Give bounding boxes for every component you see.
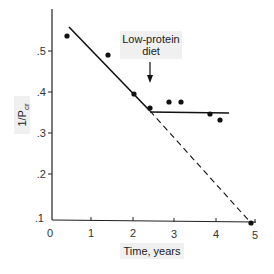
x-tick-label: 1	[88, 227, 94, 239]
y-axis-title-main: 1/P	[16, 110, 28, 127]
data-point	[131, 91, 136, 96]
x-tick-label: 2	[130, 227, 136, 239]
y-tick-label: .1	[35, 212, 44, 224]
data-point	[248, 220, 253, 225]
x-tick-label: 4	[213, 228, 219, 240]
annotation-line2: diet	[142, 45, 160, 57]
data-points	[64, 33, 253, 225]
y-tick-label: .3	[37, 127, 46, 139]
arrow-down-icon	[147, 62, 153, 83]
data-point	[207, 111, 212, 116]
x-tick-label: 3	[171, 228, 177, 240]
data-point	[166, 99, 171, 104]
x-tick-label: 5	[252, 229, 258, 241]
x-axis	[52, 220, 256, 222]
data-point	[105, 52, 110, 57]
y-tick-label: .4	[37, 86, 46, 98]
annotation-line1: Low-protein	[122, 33, 179, 45]
y-ticks: .5 .4 .3 .2 .1	[35, 45, 52, 224]
x-tick-label: 0	[47, 227, 53, 239]
y-axis-title-subscript: cr	[22, 103, 31, 110]
data-point	[64, 33, 69, 38]
data-point	[178, 99, 183, 104]
plateau-line-after-diet	[150, 112, 229, 113]
y-tick-label: .2	[37, 168, 46, 180]
x-axis-title: Time, years	[123, 245, 181, 257]
data-point	[217, 117, 222, 122]
chart: .5 .4 .3 .2 .1 0 1 2 3 4 5 Time, years 1…	[0, 0, 274, 274]
data-point	[147, 105, 152, 110]
y-tick-label: .5	[37, 45, 46, 57]
extrapolated-trend-line	[150, 111, 251, 223]
